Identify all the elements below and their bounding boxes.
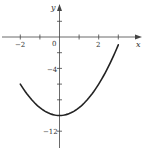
x-tick-label-2: 2 (96, 41, 100, 49)
x-axis-arrow-icon (135, 35, 142, 40)
y-axis-label: y (50, 3, 56, 12)
y-tick-label-neg4: −4 (47, 66, 58, 74)
parabola-chart: y x 0 −2 2 −4 −12 (0, 0, 144, 150)
origin-label: 0 (52, 40, 56, 48)
y-axis-arrow-icon (57, 4, 62, 11)
x-tick-label-neg2: −2 (15, 41, 25, 49)
x-axis-label: x (136, 40, 141, 49)
parabola-curve (20, 45, 118, 116)
y-tick-label-neg12: −12 (43, 128, 58, 136)
